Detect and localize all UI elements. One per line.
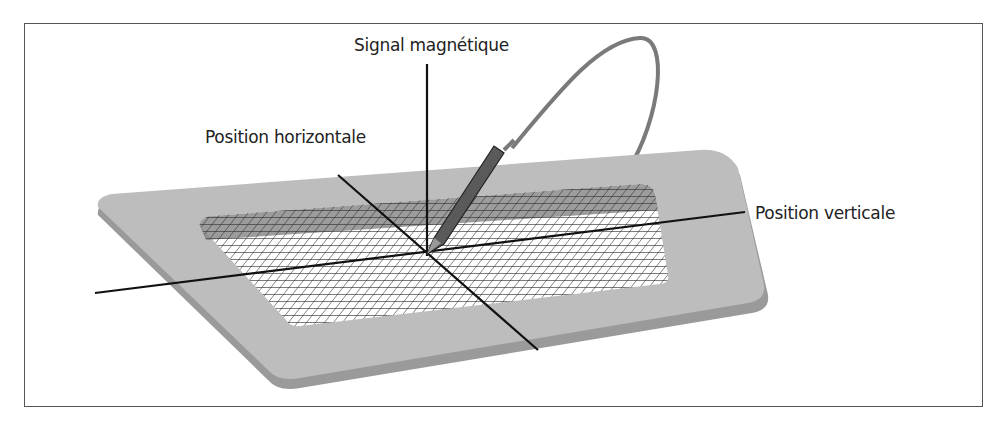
stylus-cable	[512, 38, 658, 170]
position-verticale-label: Position verticale	[755, 203, 895, 223]
position-horizontale-label: Position horizontale	[205, 127, 366, 147]
signal-magnetique-label: Signal magnétique	[354, 35, 509, 55]
